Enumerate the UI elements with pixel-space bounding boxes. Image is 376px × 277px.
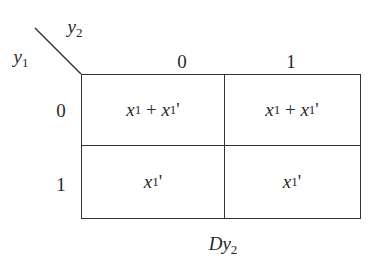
col-variable-label: y2 (68, 17, 83, 39)
row-header-1: 1 (56, 175, 66, 194)
cell-r0-c1: x1 + x1' (224, 75, 360, 145)
row-header-0: 0 (56, 101, 66, 120)
cell-r1-c0: x1' (82, 146, 224, 218)
col-header-0: 0 (177, 52, 187, 71)
row-variable-label: y1 (14, 47, 29, 69)
cell-r0-c0: x1 + x1' (82, 75, 224, 145)
kmap-grid: x1 + x1' x1 + x1' x1' x1' (81, 74, 361, 219)
diagram-caption: Dy2 (209, 234, 238, 256)
col-header-1: 1 (286, 52, 296, 71)
cell-r1-c1: x1' (224, 146, 360, 218)
